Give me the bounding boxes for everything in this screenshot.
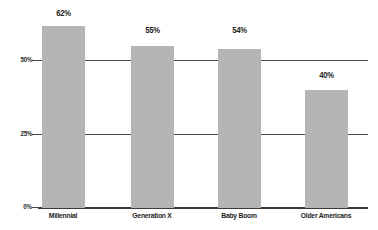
y-axis-tick-label-50: 50% (20, 56, 32, 63)
x-axis-category-label-baby-boom: Baby Boom (196, 211, 282, 220)
bar-value-label-millennial: 62% (44, 8, 83, 18)
x-axis-category-label-millennial: Millennial (20, 211, 106, 220)
gridline-50 (38, 60, 368, 61)
y-axis-tick-label-0: 0% (23, 203, 32, 210)
bar-baby-boom (218, 49, 261, 208)
x-axis-category-label-older-americans: Older Americans (283, 211, 369, 220)
y-axis-tick-label-25: 25% (20, 130, 32, 137)
bar-value-label-older-americans: 40% (307, 70, 346, 80)
bar-older-americans (305, 90, 348, 208)
bar-value-label-generation-x: 55% (133, 25, 172, 35)
y-tick-mark-50 (32, 60, 38, 61)
bar-value-label-baby-boom: 54% (220, 25, 259, 35)
y-tick-mark-0 (32, 207, 38, 208)
bar-millennial (42, 26, 85, 208)
bar-generation-x (131, 46, 174, 208)
plot-area: 50% 25% 0% 62% 55% 54% 40% Millennial Ge… (0, 0, 378, 230)
bar-chart: 50% 25% 0% 62% 55% 54% 40% Millennial Ge… (0, 0, 378, 230)
y-tick-mark-25 (32, 134, 38, 135)
x-axis-category-label-generation-x: Generation X (109, 211, 195, 220)
